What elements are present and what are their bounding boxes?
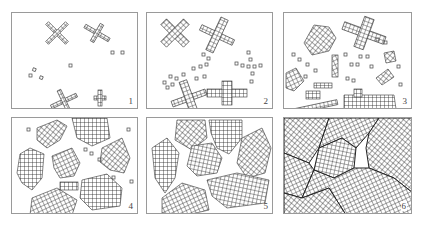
panel-label: 6 [401, 201, 408, 211]
panel-2: 2 [146, 12, 273, 109]
crystal-growth-illustration [284, 13, 412, 109]
panel-label: 4 [129, 201, 134, 211]
panel-1: 1 [11, 12, 138, 109]
panel-label: 3 [403, 96, 408, 106]
panel-5: 5 [146, 117, 273, 214]
panel-label: 5 [264, 201, 269, 211]
panel-3: 3 [283, 12, 412, 109]
polycrystal-grains-illustration [284, 118, 412, 214]
panel-6: 6 [283, 117, 412, 214]
panel-label: 1 [129, 96, 134, 106]
crystal-impingement-illustration [147, 118, 273, 214]
panel-label: 2 [264, 96, 269, 106]
crystal-nuclei-illustration [12, 13, 138, 109]
crystal-growth-illustration [12, 118, 138, 214]
panel-4: 4 [11, 117, 138, 214]
crystal-growth-illustration [147, 13, 273, 109]
